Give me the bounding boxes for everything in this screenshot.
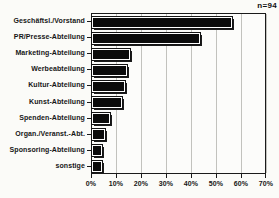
gridline: [266, 14, 267, 173]
value-tick-mark: [166, 174, 167, 178]
bar: [92, 33, 200, 44]
category-tick-mark: [87, 21, 91, 22]
category-label: Geschäftsl./Vorstand: [0, 17, 85, 25]
plot-area: [91, 13, 266, 174]
bar: [92, 129, 105, 140]
value-tick-mark: [116, 174, 117, 178]
gridline: [241, 14, 242, 173]
sample-size-label: n=94: [257, 1, 277, 10]
value-tick-label: 50%: [203, 180, 229, 187]
bar: [92, 65, 127, 76]
category-label: PR/Presse-Abteilung: [0, 33, 85, 41]
category-tick-mark: [87, 134, 91, 135]
category-label: Organ./Veranst.-Abt.: [0, 130, 85, 138]
value-tick-label: 40%: [178, 180, 204, 187]
category-tick-mark: [87, 150, 91, 151]
value-tick-mark: [241, 174, 242, 178]
category-tick-mark: [87, 37, 91, 38]
bar-chart-figure: n=94 Geschäftsl./VorstandPR/Presse-Abtei…: [0, 0, 279, 198]
category-label: Marketing-Abteilung: [0, 49, 85, 57]
bar: [92, 145, 102, 156]
value-tick-mark: [91, 174, 92, 178]
category-label: sonstige: [0, 162, 85, 170]
value-tick-label: 10%: [103, 180, 129, 187]
value-tick-label: 0%: [78, 180, 104, 187]
bar: [92, 161, 102, 172]
category-tick-mark: [87, 53, 91, 54]
value-tick-mark: [216, 174, 217, 178]
value-tick-label: 30%: [153, 180, 179, 187]
category-tick-mark: [87, 85, 91, 86]
category-label: Spenden-Abteilung: [0, 114, 85, 122]
category-tick-mark: [87, 118, 91, 119]
gridline: [216, 14, 217, 173]
bar: [92, 17, 232, 28]
category-label: Kunst-Abteilung: [0, 98, 85, 106]
category-label: Sponsoring-Abteilung: [0, 146, 85, 154]
category-tick-mark: [87, 102, 91, 103]
value-tick-mark: [191, 174, 192, 178]
value-tick-label: 20%: [128, 180, 154, 187]
bar: [92, 113, 110, 124]
category-label: Kultur-Abteilung: [0, 81, 85, 89]
value-tick-mark: [141, 174, 142, 178]
category-tick-mark: [87, 69, 91, 70]
category-label: Werbeabteilung: [0, 65, 85, 73]
value-tick-mark: [265, 174, 266, 178]
bar: [92, 97, 122, 108]
category-tick-mark: [87, 166, 91, 167]
bar: [92, 49, 130, 60]
value-tick-label: 60%: [228, 180, 254, 187]
bar: [92, 81, 125, 92]
value-tick-label: 70%: [253, 180, 279, 187]
